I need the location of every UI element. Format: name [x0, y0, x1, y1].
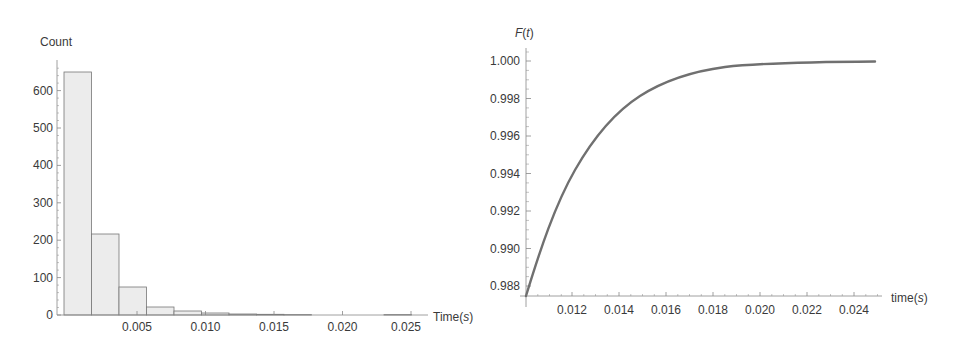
- y-tick-labels: 0 100 200 300 400 500 600: [33, 84, 53, 322]
- x-tick-label: 0.020: [745, 303, 775, 317]
- histogram-bars: [64, 72, 412, 315]
- x-tick-label: 0.018: [698, 303, 728, 317]
- x-tick-label: 0.016: [651, 303, 681, 317]
- x-axis-label: Time(s): [433, 310, 473, 324]
- y-tick-label: 0.996: [490, 129, 520, 143]
- y-tick-label: 500: [33, 121, 53, 135]
- y-tick-label: 0.990: [490, 242, 520, 256]
- bar: [119, 287, 147, 315]
- x-tick-label: 0.005: [122, 320, 152, 334]
- y-tick-label: 0.992: [490, 204, 520, 218]
- bar: [92, 234, 120, 315]
- bar: [64, 72, 92, 315]
- y-tick-label: 600: [33, 84, 53, 98]
- cdf-curve: [526, 62, 875, 297]
- histogram-chart: Count: [33, 35, 473, 334]
- x-tick-label: 0.015: [259, 320, 289, 334]
- x-tick-label: 0.020: [327, 320, 357, 334]
- y-tick-label: 100: [33, 271, 53, 285]
- x-tick-label: 0.025: [391, 320, 421, 334]
- x-tick-label: 0.024: [839, 303, 869, 317]
- y-tick-label: 200: [33, 233, 53, 247]
- bar: [174, 311, 202, 315]
- y-axis-label: Count: [40, 35, 73, 49]
- x-tick-label: 0.010: [190, 320, 220, 334]
- cdf-line-chart: F(t) 1.000 0.998 0.996 0.994 0: [490, 26, 928, 317]
- x-axis: [520, 292, 882, 296]
- y-axis: [526, 48, 531, 307]
- x-tick-labels: 0.005 0.010 0.015 0.020 0.025: [122, 320, 421, 334]
- y-tick-label: 0: [46, 308, 53, 322]
- y-axis-label: F(t): [515, 26, 534, 40]
- y-tick-label: 0.994: [490, 167, 520, 181]
- y-tick-label: 1.000: [490, 54, 520, 68]
- y-tick-label: 0.988: [490, 279, 520, 293]
- figure: Count: [0, 0, 957, 347]
- y-tick-label: 0.998: [490, 92, 520, 106]
- x-tick-label: 0.014: [604, 303, 634, 317]
- y-tick-label: 400: [33, 158, 53, 172]
- x-axis-label: time(s): [891, 291, 928, 305]
- x-tick-label: 0.022: [792, 303, 822, 317]
- bar: [147, 307, 175, 315]
- y-axis: [57, 60, 61, 315]
- x-tick-label: 0.012: [557, 303, 587, 317]
- y-tick-labels: 1.000 0.998 0.996 0.994 0.992 0.990 0.98…: [490, 54, 520, 293]
- y-tick-label: 300: [33, 196, 53, 210]
- x-tick-labels: 0.012 0.014 0.016 0.018 0.020 0.022 0.02…: [557, 303, 869, 317]
